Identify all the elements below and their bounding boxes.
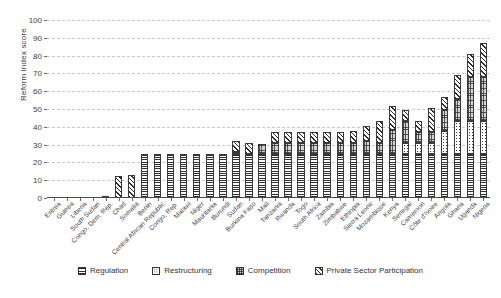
bar-column: [441, 97, 448, 198]
legend-item: Restructuring: [152, 266, 212, 275]
bar-segment-private-sector-participation: [402, 110, 409, 122]
bar-segment-competition: [415, 132, 422, 143]
bar-segment-regulation: [167, 154, 174, 199]
bar-segment-competition: [428, 132, 435, 143]
legend-label: Restructuring: [164, 266, 212, 275]
bar-segment-private-sector-participation: [376, 121, 383, 143]
legend-label: Regulation: [90, 266, 128, 275]
plot-area: 0102030405060708090100: [47, 20, 490, 198]
bar-segment-regulation: [480, 154, 487, 199]
bar-segment-private-sector-participation: [441, 97, 448, 110]
bar-segment-private-sector-participation: [271, 132, 278, 143]
bar-segment-regulation: [454, 154, 461, 199]
chart-legend: RegulationRestructuringCompetitionPrivat…: [0, 266, 501, 275]
bar-column: [454, 75, 461, 198]
x-axis-tick: [67, 198, 68, 201]
bar-segment-restructuring: [467, 121, 474, 153]
bar-column: [167, 154, 174, 199]
bar-column: [245, 143, 252, 198]
bar-segment-competition: [480, 77, 487, 122]
bar-column: [154, 154, 161, 199]
bar-segment-regulation: [219, 154, 226, 199]
bar-segment-private-sector-participation: [389, 106, 396, 130]
y-axis-tick-label: 100: [29, 16, 42, 25]
bar-segment-private-sector-participation: [128, 175, 135, 198]
legend-label: Competition: [248, 266, 291, 275]
bar-column: [180, 154, 187, 199]
bar-column: [350, 131, 357, 198]
bar-segment-competition: [363, 141, 370, 153]
bar-column: [323, 132, 330, 198]
bar-segment-regulation: [310, 154, 317, 199]
x-axis-tick: [54, 198, 55, 201]
bar-segment-competition: [310, 143, 317, 154]
bar-column: [206, 154, 213, 199]
bar-segment-regulation: [141, 154, 148, 199]
bar-segment-restructuring: [480, 121, 487, 153]
bar-segment-regulation: [154, 154, 161, 199]
bar-segment-restructuring: [441, 131, 448, 153]
bar-segment-restructuring: [454, 121, 461, 153]
bar-column: [297, 132, 304, 198]
bar-segment-competition: [258, 144, 265, 154]
y-axis-tick: [44, 198, 47, 199]
bar-segment-regulation: [389, 154, 396, 199]
x-axis-tick: [80, 198, 81, 201]
bar-column: [128, 175, 135, 198]
legend-swatch-icon: [315, 267, 323, 275]
y-axis-tick-label: 80: [33, 51, 42, 60]
bar-column: [284, 132, 291, 198]
bar-column: [115, 176, 122, 198]
y-axis-tick-label: 20: [33, 158, 42, 167]
y-axis-tick-label: 0: [38, 194, 42, 203]
bar-segment-regulation: [350, 154, 357, 199]
bar-segment-regulation: [193, 154, 200, 199]
bar-segment-regulation: [415, 154, 422, 199]
bar-segment-private-sector-participation: [245, 143, 252, 154]
bar-segment-restructuring: [428, 143, 435, 154]
bar-segment-private-sector-participation: [310, 132, 317, 143]
bar-segment-regulation: [232, 154, 239, 199]
bar-segment-restructuring: [402, 143, 409, 154]
legend-swatch-icon: [152, 267, 160, 275]
bar-segment-private-sector-participation: [467, 54, 474, 77]
bar-column: [480, 43, 487, 198]
bar-segment-regulation: [323, 154, 330, 199]
bar-segment-competition: [297, 143, 304, 154]
bar-segment-private-sector-participation: [232, 141, 239, 152]
bar-segment-private-sector-participation: [337, 132, 344, 143]
bar-segment-competition: [467, 77, 474, 122]
bar-segment-regulation: [428, 154, 435, 199]
bar-segment-private-sector-participation: [454, 75, 461, 99]
bar-segment-regulation: [297, 154, 304, 199]
bar-column: [415, 121, 422, 198]
bar-segment-regulation: [245, 154, 252, 199]
bar-segment-regulation: [206, 154, 213, 199]
bar-segment-regulation: [337, 154, 344, 199]
legend-item: Competition: [236, 266, 291, 275]
bar-column: [271, 132, 278, 198]
y-axis-tick-label: 40: [33, 122, 42, 131]
bar-column: [402, 110, 409, 198]
reform-index-bar-chart: Reform index score 010203040506070809010…: [0, 0, 501, 298]
bar-segment-restructuring: [415, 143, 422, 154]
bar-segment-competition: [271, 143, 278, 154]
bar-segment-private-sector-participation: [428, 108, 435, 132]
y-axis-tick-label: 50: [33, 105, 42, 114]
bar-segment-regulation: [271, 154, 278, 199]
x-axis-tick: [93, 198, 94, 201]
bar-column: [363, 126, 370, 198]
bar-column: [219, 154, 226, 199]
bar-segment-competition: [376, 143, 383, 154]
y-axis-tick-label: 90: [33, 33, 42, 42]
legend-item: Private Sector Participation: [315, 266, 424, 275]
legend-swatch-icon: [78, 267, 86, 275]
bar-segment-private-sector-participation: [350, 131, 357, 143]
bar-segment-regulation: [180, 154, 187, 199]
bar-segment-private-sector-participation: [363, 126, 370, 141]
bar-segment-competition: [323, 143, 330, 154]
bar-segment-competition: [389, 130, 396, 153]
bar-segment-private-sector-participation: [323, 132, 330, 143]
bar-column: [467, 54, 474, 198]
bar-column: [337, 132, 344, 198]
